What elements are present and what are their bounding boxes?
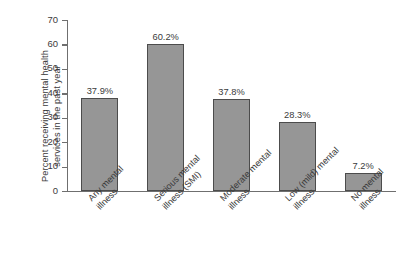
y-axis-tick-label: 40: [47, 87, 58, 98]
bar-value-label: 37.9%: [70, 86, 130, 96]
y-axis-tick-label: 0: [53, 185, 58, 196]
bar-value-label: 60.2%: [136, 31, 196, 41]
y-axis-tick-label: 50: [47, 62, 58, 73]
bar-value-label: 28.3%: [267, 109, 327, 119]
bar-value-label: 37.8%: [202, 86, 262, 96]
y-axis-tick-label: 10: [47, 160, 58, 171]
y-axis-tick-label: 60: [47, 38, 58, 49]
bar-chart: Percent receiving mental health services…: [0, 0, 412, 276]
y-axis-tick-label: 20: [47, 136, 58, 147]
x-axis-labels: Any mentalillnessSerious mentalillness (…: [67, 192, 396, 276]
y-axis-tick-label: 30: [47, 111, 58, 122]
y-axis-tick-label: 70: [47, 14, 58, 25]
